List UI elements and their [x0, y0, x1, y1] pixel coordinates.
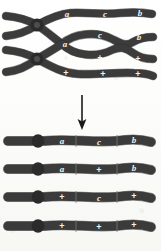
centromere-lower [30, 52, 43, 65]
product-chromatid-3: + c + [8, 190, 151, 204]
upper-stage-diagram: .strand { fill: none; stroke: #3b3b3b; s… [0, 0, 161, 100]
chromatid-2-right-arm [37, 25, 153, 44]
product-3-centromere [32, 190, 45, 204]
upper-chromatid-4-marker-0: + [63, 68, 68, 78]
product-chromatid-4-marker-0: + [59, 221, 64, 231]
product-chromatid-1: a c b [8, 134, 151, 148]
product-chromatid-2: a + b [8, 162, 151, 176]
upper-chromatid-2-marker-1: c [98, 30, 102, 40]
product-chromatid-4-marker-2: + [131, 220, 136, 230]
upper-chromatid-1-marker-0: a [65, 9, 70, 19]
product-chromatid-3-marker-0: + [59, 192, 64, 202]
upper-chromatid-4-marker-2: + [135, 69, 140, 79]
product-2-centromere [32, 162, 45, 176]
product-chromatid-1-marker-2: b [132, 135, 137, 145]
product-chromatid-4-marker-1: + [96, 222, 101, 232]
product-4-centromere [32, 219, 45, 233]
product-chromatid-1-marker-0: a [60, 136, 65, 146]
centromere-upper [30, 18, 43, 31]
upper-chromatid-1-marker-1: c [103, 9, 107, 19]
transition-arrow [0, 93, 161, 133]
product-chromatid-2-marker-1: + [96, 165, 101, 175]
upper-chromatid-2-marker-0: a [63, 39, 68, 49]
product-1-centromere [32, 134, 45, 148]
upper-chromatid-3-marker-0: + [63, 53, 68, 63]
chromatid-1-right-arm [37, 12, 152, 25]
product-chromatid-2-marker-0: a [60, 164, 65, 174]
upper-chromatid-4-marker-1: + [100, 69, 105, 79]
product-chromatid-3-marker-2: + [131, 191, 136, 201]
crossing-over-figure: .strand { fill: none; stroke: #3b3b3b; s… [0, 0, 161, 251]
upper-chromatid-2-marker-2: b [137, 32, 142, 42]
product-chromatid-1-marker-1: c [97, 137, 101, 147]
lower-stage-diagram: .rod { fill: none; stroke: #3b3b3b; stro… [0, 131, 161, 251]
upper-chromatid-3-marker-2: + [135, 54, 140, 64]
product-chromatid-4: + + + [8, 219, 151, 233]
upper-chromatid-3-marker-1: + [97, 53, 102, 63]
upper-chromatid-1-marker-2: b [138, 8, 143, 18]
product-chromatid-2-marker-2: b [132, 163, 137, 173]
product-chromatid-3-marker-1: c [97, 193, 101, 203]
